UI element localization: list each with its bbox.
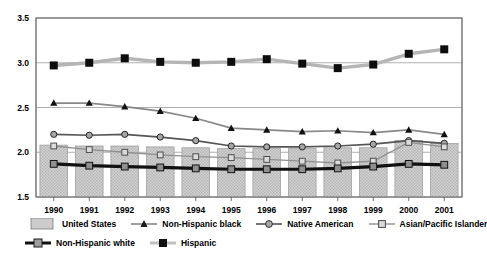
square-data-point: [405, 160, 412, 167]
square-data-point: [192, 165, 199, 172]
y-axis-tick-label: 3.5: [17, 13, 29, 23]
square-data-point: [299, 166, 306, 173]
circle-data-point: [51, 131, 57, 137]
square-data-point: [86, 162, 93, 169]
legend-item-asian-pacific-islander[interactable]: Asian/Pacific Islander: [368, 218, 487, 230]
square-open-data-point: [86, 147, 92, 153]
legend-item-hispanic[interactable]: Hispanic: [149, 237, 216, 249]
square-filled-data-point: [121, 54, 129, 62]
chart-legend: United States Non-Hispanic black Native …: [0, 214, 466, 262]
legend-label: Hispanic: [181, 238, 216, 248]
legend-label: Non-Hispanic black: [162, 219, 241, 229]
square-filled-data-point: [85, 59, 93, 67]
y-axis-tick-label: 3.0: [17, 58, 29, 68]
circle-data-point: [86, 132, 92, 138]
legend-item-united-states[interactable]: United States: [30, 218, 116, 230]
square-open-data-point: [264, 157, 270, 163]
square-open-data-point: [51, 143, 57, 149]
legend-item-native-american[interactable]: Native American: [255, 218, 353, 230]
square-data-point: [370, 163, 377, 170]
bar-united-states: [395, 141, 423, 197]
square-open-data-point: [406, 140, 412, 146]
square-open-data-point: [193, 154, 199, 160]
square-open-data-point: [299, 158, 305, 164]
square-filled-data-point: [369, 61, 377, 69]
bar-united-states: [324, 148, 352, 197]
bar-united-states: [40, 145, 68, 197]
bar-united-states: [359, 148, 387, 197]
square-filled-data-point: [405, 50, 413, 58]
square-open-marker-icon: [368, 218, 396, 230]
square-data-point: [334, 165, 341, 172]
square-data-point: [441, 161, 448, 168]
bar-swatch-icon: [30, 218, 58, 230]
square-data-point: [121, 163, 128, 170]
circle-data-point: [228, 143, 234, 149]
square-data-point: [263, 166, 270, 173]
square-data-point: [50, 160, 57, 167]
legend-item-non-hispanic-black[interactable]: Non-Hispanic black: [130, 218, 241, 230]
square-filled-data-point: [334, 64, 342, 72]
square-data-point: [228, 166, 235, 173]
square-filled-data-point: [440, 45, 448, 53]
square-data-point: [157, 164, 164, 171]
circle-data-point: [370, 141, 376, 147]
circle-data-point: [335, 143, 341, 149]
legend-item-non-hispanic-white[interactable]: Non-Hispanic white: [24, 237, 135, 249]
square-filled-data-point: [227, 58, 235, 66]
square-filled-data-point: [156, 58, 164, 66]
square-filled-data-point: [298, 60, 306, 68]
legend-label: Non-Hispanic white: [56, 238, 135, 248]
square-open-data-point: [228, 155, 234, 161]
bar-united-states: [75, 146, 103, 197]
square-marker-icon: [24, 237, 52, 249]
plot-area: 1.52.02.53.03.51990199119921993199419951…: [0, 0, 466, 215]
square-filled-marker-icon: [149, 237, 177, 249]
triangle-marker-icon: [130, 218, 158, 230]
square-open-data-point: [441, 144, 447, 150]
legend-label: United States: [62, 219, 116, 229]
legend-label: Asian/Pacific Islander: [400, 219, 487, 229]
circle-data-point: [299, 144, 305, 150]
square-filled-data-point: [50, 61, 58, 69]
circle-data-point: [122, 131, 128, 137]
y-axis-tick-label: 2.5: [17, 103, 29, 113]
square-filled-data-point: [263, 55, 271, 63]
circle-data-point: [157, 134, 163, 140]
bar-united-states: [430, 143, 458, 197]
legend-label: Native American: [287, 219, 353, 229]
square-open-data-point: [157, 152, 163, 158]
circle-data-point: [264, 144, 270, 150]
square-filled-data-point: [192, 59, 200, 67]
circle-marker-icon: [255, 218, 283, 230]
chart-svg: 1.52.02.53.03.51990199119921993199419951…: [0, 0, 466, 215]
y-axis-tick-label: 2.0: [17, 147, 29, 157]
y-axis-tick-label: 1.5: [17, 192, 29, 202]
square-open-data-point: [122, 149, 128, 155]
circle-data-point: [193, 138, 199, 144]
